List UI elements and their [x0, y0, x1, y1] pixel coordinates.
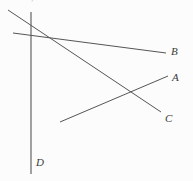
label-a: A: [172, 72, 179, 83]
line-segment-b: [13, 33, 166, 53]
diagram-canvas: [0, 0, 193, 181]
line-segment-a: [60, 76, 168, 122]
line-diagram-figure: 11. 21, 1 1 1 1 1 1 1 1 1 1 1 1 1 1 B A …: [0, 0, 193, 181]
label-b: B: [171, 46, 178, 57]
label-d: D: [36, 157, 44, 168]
label-c: C: [165, 113, 172, 124]
